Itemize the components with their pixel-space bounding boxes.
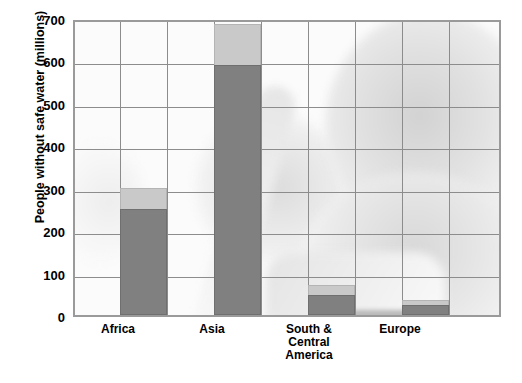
y-tick-label-200: 200 <box>5 225 65 240</box>
bar-africa <box>120 188 167 315</box>
y-tick-label-700: 700 <box>5 13 65 28</box>
x-tick-label-asia: Asia <box>182 323 242 336</box>
y-tick-label-0: 0 <box>5 310 65 325</box>
bar-south-central-america <box>308 285 355 315</box>
x-tick-label-south-central-america-line-3: America <box>271 349 347 362</box>
x-tick-label-africa: Africa <box>88 323 148 336</box>
bar-europe <box>402 300 449 315</box>
bar-asia-rural-segment <box>214 65 261 315</box>
plot-area: urban rural <box>73 20 501 317</box>
gridline-600 <box>75 64 499 65</box>
gridline-400 <box>75 149 499 150</box>
bar-africa-rural-segment <box>120 209 167 315</box>
gridline-500 <box>75 107 499 108</box>
x-tick-label-europe: Europe <box>370 323 430 336</box>
bar-europe-rural-segment <box>402 305 449 315</box>
bar-south-central-america-urban-segment <box>308 285 355 295</box>
bar-africa-urban-segment <box>120 188 167 209</box>
bar-asia-urban-segment <box>214 24 261 64</box>
x-tick-label-africa-line-1: Africa <box>88 323 148 336</box>
y-tick-label-100: 100 <box>5 268 65 283</box>
gridline-v-4 <box>261 22 262 315</box>
x-tick-label-europe-line-1: Europe <box>370 323 430 336</box>
x-tick-label-south-central-america: South & Central America <box>271 323 347 362</box>
bar-asia <box>214 24 261 315</box>
bar-south-central-america-rural-segment <box>308 295 355 315</box>
gridline-v-8 <box>449 22 450 315</box>
gridline-v-5 <box>308 22 309 315</box>
y-tick-label-600: 600 <box>5 55 65 70</box>
gridline-v-6 <box>355 22 356 315</box>
y-tick-label-300: 300 <box>5 183 65 198</box>
gridline-v-7 <box>402 22 403 315</box>
y-tick-label-500: 500 <box>5 98 65 113</box>
gridline-v-2 <box>167 22 168 315</box>
chart-container: People without safe water (millions) 700… <box>0 0 522 383</box>
x-tick-label-asia-line-1: Asia <box>182 323 242 336</box>
y-tick-label-400: 400 <box>5 140 65 155</box>
